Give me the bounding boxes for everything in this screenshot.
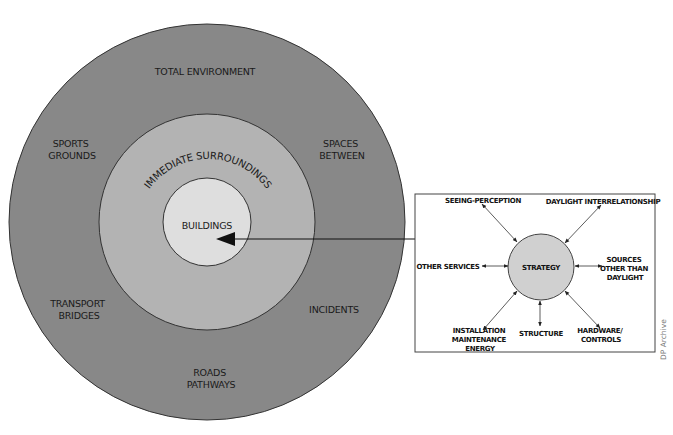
hardware-controls-label: HARDWARE/ CONTROLS	[577, 327, 624, 344]
spaces-between-label: SPACES BETWEEN	[319, 138, 365, 161]
daylight-interrelationship-label: DAYLIGHT INTERRELATIONSHIP	[546, 198, 661, 206]
other-services-label: OTHER SERVICES	[416, 263, 479, 271]
transport-bridges-label: TRANSPORT BRIDGES	[49, 298, 108, 321]
environment-diagram: TOTAL ENVIRONMENT SPORTS GROUNDS SPACES …	[0, 0, 673, 435]
strategy-label: STRATEGY	[522, 264, 561, 272]
sports-grounds-label: SPORTS GROUNDS	[48, 138, 96, 161]
total-environment-label: TOTAL ENVIRONMENT	[154, 66, 256, 77]
structure-label: STRUCTURE	[519, 330, 563, 338]
seeing-perception-label: SEEING-PERCEPTION	[445, 197, 522, 205]
credit-label: DP Archive	[659, 319, 668, 360]
roads-pathways-label: ROADS PATHWAYS	[187, 367, 236, 390]
buildings-label: BUILDINGS	[182, 220, 233, 231]
incidents-label: INCIDENTS	[309, 304, 359, 315]
sources-other-than-daylight-label: SOURCES OTHER THAN DAYLIGHT	[600, 256, 650, 282]
